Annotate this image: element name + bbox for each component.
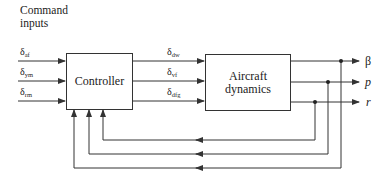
junction-r bbox=[313, 100, 317, 104]
signal-label-vf: δvf bbox=[167, 67, 177, 80]
input-label-ym: δym bbox=[20, 67, 33, 80]
output-label-p: p bbox=[365, 76, 371, 88]
junction-p bbox=[326, 80, 330, 84]
controller-block: Controller bbox=[66, 53, 133, 110]
signal-label-dfg: δdfg bbox=[167, 87, 180, 100]
junction-beta bbox=[339, 59, 343, 63]
controller-label: Controller bbox=[75, 75, 124, 88]
diagram-connections bbox=[0, 0, 387, 184]
output-label-beta: β bbox=[365, 55, 371, 67]
aircraft-dynamics-block: Aircraft dynamics bbox=[205, 54, 291, 111]
input-label-rm: δrm bbox=[20, 87, 32, 100]
input-label-af: δaf bbox=[20, 47, 30, 60]
aircraft-label-line2: dynamics bbox=[225, 83, 271, 96]
output-label-r: r bbox=[366, 96, 371, 108]
aircraft-label-line1: Aircraft bbox=[229, 70, 267, 83]
signal-label-dw: δdw bbox=[167, 47, 180, 60]
